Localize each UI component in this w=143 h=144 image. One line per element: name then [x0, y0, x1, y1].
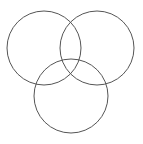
- circle-bottom: [34, 59, 108, 133]
- circle-right: [60, 11, 134, 85]
- venn-diagram: [0, 0, 143, 144]
